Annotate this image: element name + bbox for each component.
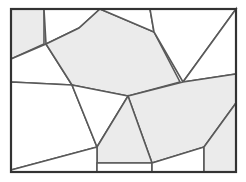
polygon-cells-group — [11, 9, 236, 172]
tessellation-canvas — [0, 0, 246, 182]
tessellation-diagram — [0, 0, 246, 182]
cell-bottom-mid-sliver — [97, 163, 152, 172]
